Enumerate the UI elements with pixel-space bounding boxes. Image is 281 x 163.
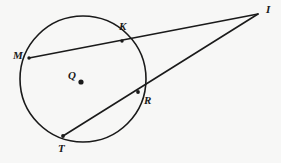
point-label-m: M [13,50,23,61]
point-label-t: T [58,143,65,154]
vertex-dot-r [136,90,140,94]
vertex-dot-k [120,39,123,42]
vertex-dot-m [27,56,30,59]
center-dot-q [78,79,83,84]
vertex-dot-t [61,134,65,138]
geometry-canvas [0,0,281,163]
point-label-r: R [144,95,151,106]
geometry-diagram: M K I R T Q [0,0,281,163]
center-label-q: Q [68,70,76,81]
point-label-i: I [266,4,270,15]
point-label-k: K [119,21,126,32]
